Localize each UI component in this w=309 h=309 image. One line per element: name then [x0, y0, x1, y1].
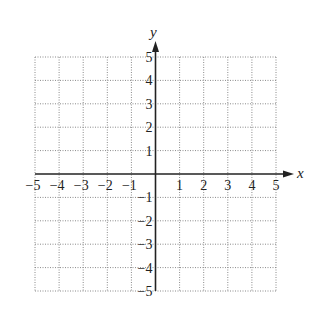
- x-tick-label: 2: [200, 178, 207, 193]
- y-tick-label: −3: [138, 237, 153, 252]
- coordinate-plane: −5−4−3−2−112345 −5−4−3−2−112345 x y: [0, 0, 309, 309]
- y-tick-label: 5: [146, 50, 153, 65]
- y-tick-label: 3: [146, 97, 153, 112]
- x-tick-label: −3: [74, 178, 89, 193]
- x-axis-label: x: [296, 165, 304, 181]
- y-axis-label: y: [148, 24, 157, 40]
- x-tick-label: −1: [122, 178, 137, 193]
- x-tick-label: 3: [224, 178, 231, 193]
- y-tick-label: 2: [146, 120, 153, 135]
- x-tick-label: −5: [26, 178, 41, 193]
- y-axis-arrow-icon: [152, 41, 159, 52]
- x-axis-arrow-icon: [283, 171, 294, 178]
- y-tick-label: 1: [146, 144, 153, 159]
- y-tick-label: 4: [146, 73, 153, 88]
- y-tick-label: −1: [138, 190, 153, 205]
- x-tick-labels: −5−4−3−2−112345: [26, 178, 280, 193]
- x-tick-label: −4: [50, 178, 65, 193]
- x-tick-label: 1: [176, 178, 183, 193]
- x-tick-label: −2: [98, 178, 113, 193]
- axes: [35, 41, 294, 291]
- y-tick-label: −5: [138, 284, 153, 299]
- x-tick-label: 4: [248, 178, 255, 193]
- x-tick-label: 5: [273, 178, 280, 193]
- y-tick-label: −4: [138, 261, 153, 276]
- y-tick-label: −2: [138, 214, 153, 229]
